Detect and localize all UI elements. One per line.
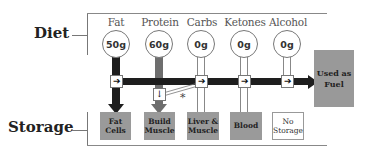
fat-junction-node: ➔: [110, 75, 123, 88]
storage-box-blood: Blood: [230, 112, 262, 140]
storage-fat-line-1: Fat: [105, 117, 126, 126]
column-label-alcohol: Alcohol: [263, 16, 313, 28]
storage-protein-line-1: Build: [144, 117, 174, 126]
alcohol-amount-circle: 0g: [273, 30, 301, 58]
diet-tick: [72, 35, 87, 36]
fuel-label-line-2: Fuel: [317, 79, 352, 89]
asterisk-annotation: *: [180, 91, 186, 104]
ketones-junction-node: ➔: [238, 75, 251, 88]
arrow-right-icon: ➔: [241, 77, 249, 86]
fuel-label-line-1: Used as: [317, 68, 352, 78]
storage-box-build-muscle: Build Muscle: [144, 112, 175, 140]
fat-pipe: [112, 55, 120, 75]
storage-label: Storage: [8, 118, 73, 136]
storage-box-liver-muscle: Liver & Muscle: [187, 112, 219, 140]
storage-alcohol-line-2: Storage: [273, 126, 303, 135]
fat-pipe-lower: [112, 86, 120, 106]
storage-carbs-line-2: Muscle: [188, 126, 219, 135]
arrow-right-icon: ➔: [198, 77, 206, 86]
storage-box-fat-cells: Fat Cells: [100, 112, 131, 140]
diet-label: Diet: [34, 24, 69, 42]
diet-bracket-top: [87, 13, 327, 14]
arrow-right-icon: ➔: [113, 77, 121, 86]
alcohol-amount: 0g: [280, 39, 293, 50]
storage-tick: [72, 130, 87, 131]
carbs-amount-circle: 0g: [187, 30, 215, 58]
fat-amount: 50g: [106, 39, 126, 50]
arrow-down-icon: ↓: [156, 90, 164, 99]
carbs-amount: 0g: [194, 39, 207, 50]
ketones-amount: 0g: [237, 39, 250, 50]
storage-protein-line-2: Muscle: [144, 126, 174, 135]
storage-carbs-line-1: Liver &: [188, 117, 219, 126]
ketones-amount-circle: 0g: [230, 30, 258, 58]
fat-amount-circle: 50g: [102, 30, 130, 58]
storage-ketones-label: Blood: [234, 121, 258, 130]
storage-bracket-left: [87, 112, 88, 145]
protein-amount: 60g: [149, 39, 169, 50]
protein-amount-circle: 60g: [145, 30, 173, 58]
storage-alcohol-line-1: No: [273, 117, 303, 126]
arrow-right-icon: ➔: [284, 77, 292, 86]
used-as-fuel-box: Used as Fuel: [314, 50, 354, 107]
carbs-junction-node: ➔: [195, 75, 208, 88]
protein-junction-node: ↓: [153, 88, 166, 101]
storage-box-no-storage: No Storage: [272, 112, 304, 140]
alcohol-junction-node: ➔: [281, 75, 294, 88]
storage-fat-line-2: Cells: [105, 126, 126, 135]
column-label-fat: Fat: [91, 16, 141, 28]
diet-bracket-left: [87, 13, 88, 55]
storage-bracket-bottom: [87, 145, 327, 146]
